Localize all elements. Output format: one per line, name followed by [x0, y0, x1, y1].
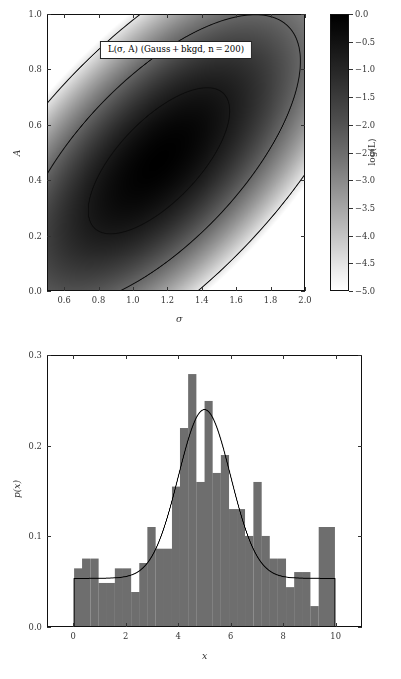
ytick-mark-right [301, 180, 305, 181]
colorbar-tick-label: −1.0 [355, 64, 375, 74]
ytick-label: 0.0 [29, 286, 43, 296]
xtick-mark [126, 623, 127, 627]
ytick-mark [47, 125, 51, 126]
colorbar-tick-mark [349, 291, 353, 292]
xtick-mark [99, 287, 100, 291]
colorbar-tick-label: −4.5 [355, 258, 375, 268]
ytick-mark [47, 446, 51, 447]
xtick-mark-top [305, 14, 306, 18]
ytick-label: 1.0 [29, 9, 43, 19]
ytick-label: 0.0 [29, 622, 43, 632]
colorbar-tick-mark [349, 153, 353, 154]
colorbar-label: log(L) [367, 138, 377, 165]
colorbar-tick-mark [349, 180, 353, 181]
xtick-mark [133, 287, 134, 291]
colorbar-tick-mark [349, 208, 353, 209]
colorbar-tick-label: −1.5 [355, 92, 375, 102]
ytick-mark [47, 69, 51, 70]
xtick-mark-top [64, 14, 65, 18]
xtick-mark [64, 287, 65, 291]
xtick-label: 1.0 [126, 295, 140, 305]
ytick-label: 0.2 [29, 231, 43, 241]
histogram-plot [48, 356, 361, 626]
ytick-mark-right [358, 536, 362, 537]
colorbar-tick-mark [349, 69, 353, 70]
xtick-mark-top [73, 355, 74, 359]
xtick-mark-top [202, 14, 203, 18]
xtick-mark [167, 287, 168, 291]
xtick-label: 8 [281, 631, 286, 641]
histogram-xaxis-label: x [202, 650, 207, 661]
colorbar-tick-label: −0.5 [355, 37, 375, 47]
xtick-mark-top [271, 14, 272, 18]
colorbar-tick-mark [349, 14, 353, 15]
xtick-mark-top [231, 355, 232, 359]
xtick-mark-top [126, 355, 127, 359]
ytick-mark-right [301, 14, 305, 15]
colorbar-tick-mark [349, 42, 353, 43]
xtick-label: 1.8 [264, 295, 278, 305]
xtick-label: 1.2 [161, 295, 175, 305]
colorbar-tick-layer: 0.0−0.5−1.0−1.5−2.0−2.5−3.0−3.5−4.0−4.5−… [330, 14, 400, 291]
ytick-mark [47, 536, 51, 537]
xtick-label: 10 [330, 631, 341, 641]
xtick-mark [178, 623, 179, 627]
ytick-mark-right [358, 355, 362, 356]
ytick-mark [47, 180, 51, 181]
xtick-label: 0 [71, 631, 76, 641]
ytick-label: 0.1 [29, 531, 43, 541]
xtick-mark [305, 287, 306, 291]
xtick-mark [283, 623, 284, 627]
ytick-mark-right [301, 125, 305, 126]
xtick-label: 1.4 [195, 295, 209, 305]
xtick-label: 1.6 [229, 295, 243, 305]
colorbar-tick-mark [349, 236, 353, 237]
xtick-mark-top [236, 14, 237, 18]
figure-canvas: L(σ, A) (Gauss + bkgd, n = 200) 0.60.81.… [0, 0, 401, 679]
xtick-label: 0.6 [57, 295, 71, 305]
colorbar-tick-label: 0.0 [355, 9, 368, 19]
colorbar-tick-mark [349, 125, 353, 126]
xtick-mark-top [336, 355, 337, 359]
ytick-mark-right [301, 236, 305, 237]
ytick-label: 0.4 [29, 175, 43, 185]
ytick-label: 0.2 [29, 441, 43, 451]
xtick-mark-top [133, 14, 134, 18]
ytick-label: 0.6 [29, 120, 43, 130]
ytick-mark [47, 627, 51, 628]
colorbar-tick-mark [349, 97, 353, 98]
xtick-mark [236, 287, 237, 291]
likelihood-title: L(σ, A) (Gauss + bkgd, n = 200) [108, 44, 244, 54]
ytick-mark-right [358, 627, 362, 628]
ytick-mark-right [301, 291, 305, 292]
ytick-mark-right [301, 69, 305, 70]
xtick-mark-top [283, 355, 284, 359]
likelihood-axes: L(σ, A) (Gauss + bkgd, n = 200) [47, 14, 305, 291]
colorbar-tick-label: −2.0 [355, 120, 375, 130]
ytick-mark-right [358, 446, 362, 447]
likelihood-xaxis-label: σ [176, 313, 183, 324]
colorbar-tick-mark [349, 263, 353, 264]
xtick-mark [231, 623, 232, 627]
xtick-label: 2.0 [298, 295, 312, 305]
histogram-yaxis-label: p(x) [12, 480, 22, 498]
ytick-mark [47, 14, 51, 15]
colorbar-tick-label: −3.0 [355, 175, 375, 185]
xtick-label: 6 [228, 631, 233, 641]
ytick-label: 0.8 [29, 64, 43, 74]
xtick-mark-top [99, 14, 100, 18]
colorbar-tick-label: −4.0 [355, 231, 375, 241]
xtick-mark [202, 287, 203, 291]
xtick-mark [336, 623, 337, 627]
ytick-label: 0.3 [29, 350, 43, 360]
ytick-mark [47, 236, 51, 237]
ytick-mark [47, 355, 51, 356]
likelihood-yaxis-label: A [12, 150, 22, 157]
likelihood-title-box: L(σ, A) (Gauss + bkgd, n = 200) [100, 41, 252, 59]
xtick-label: 2 [123, 631, 128, 641]
xtick-mark [271, 287, 272, 291]
xtick-label: 0.8 [92, 295, 106, 305]
xtick-label: 4 [176, 631, 181, 641]
ytick-mark [47, 291, 51, 292]
xtick-mark [73, 623, 74, 627]
